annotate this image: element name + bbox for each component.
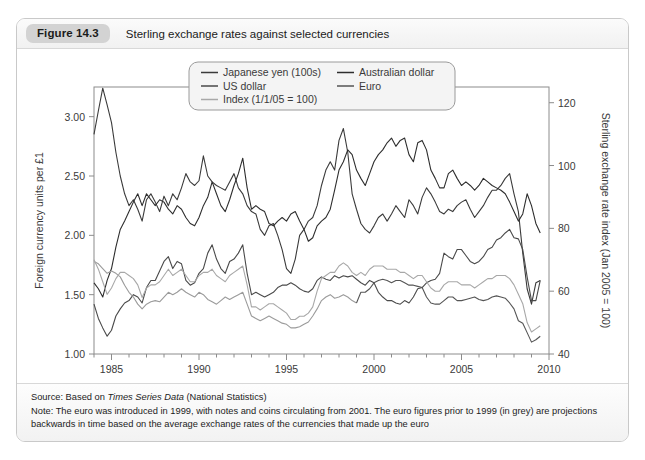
y2-axis-tick-label: 120 [558, 97, 576, 109]
legend-label: Euro [359, 80, 381, 92]
x-axis-tick-label: 2010 [537, 363, 561, 375]
y-axis-tick-label: 2.50 [65, 170, 86, 182]
figure-title: Sterling exchange rates against selected… [126, 28, 389, 40]
legend-label: Australian dollar [359, 66, 435, 78]
y2-axis-tick-label: 80 [558, 222, 570, 234]
legend-label: Index (1/1/05 = 100) [223, 93, 317, 105]
y2-axis-tick-label: 100 [558, 160, 576, 172]
y-axis-title: Foreign currency units per £1 [33, 152, 45, 289]
chart-plot-area: 1.001.502.002.503.0040608010012019851990… [17, 49, 629, 389]
x-axis-tick-label: 2005 [450, 363, 474, 375]
figure-header: Figure 14.3 Sterling exchange rates agai… [17, 19, 628, 49]
euro-note: Note: The euro was introduced in 1999, w… [31, 405, 614, 431]
legend-label: US dollar [223, 80, 267, 92]
source-italic-title: Times Series Data [108, 392, 184, 402]
source-prefix: Source: Based on [31, 392, 108, 402]
y-axis-tick-label: 1.50 [65, 289, 86, 301]
y2-axis-tick-label: 60 [558, 285, 570, 297]
source-suffix: (National Statistics) [184, 392, 267, 402]
y-axis-tick-label: 3.00 [65, 111, 86, 123]
y2-axis-title: Sterling exchange rate index (Jan 2005 =… [600, 113, 612, 329]
figure-card: Figure 14.3 Sterling exchange rates agai… [16, 18, 629, 442]
x-axis-tick-label: 1985 [100, 363, 124, 375]
x-axis-tick-label: 1995 [275, 363, 299, 375]
y2-axis-tick-label: 40 [558, 348, 570, 360]
x-axis-tick-label: 1990 [187, 363, 211, 375]
figure-footer: Source: Based on Times Series Data (Nati… [17, 383, 628, 441]
y-axis-tick-label: 2.00 [65, 229, 86, 241]
line-chart: 1.001.502.002.503.0040608010012019851990… [17, 49, 629, 389]
figure-page: Figure 14.3 Sterling exchange rates agai… [0, 0, 645, 460]
x-axis-tick-label: 2000 [362, 363, 386, 375]
source-note: Source: Based on Times Series Data (Nati… [31, 391, 614, 404]
figure-number-badge: Figure 14.3 [26, 24, 110, 43]
legend-label: Japanese yen (100s) [223, 66, 321, 78]
y-axis-tick-label: 1.00 [65, 348, 86, 360]
